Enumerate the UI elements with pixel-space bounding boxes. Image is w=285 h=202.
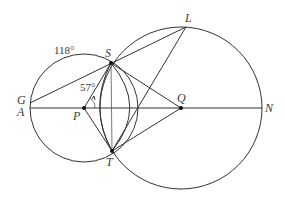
- label-t: T: [106, 155, 114, 169]
- label-n: N: [264, 101, 274, 115]
- label-a: A: [16, 105, 25, 119]
- line-t-l: [112, 27, 186, 151]
- point-t: [110, 149, 114, 153]
- point-p: [82, 106, 86, 110]
- lens-arc-left: [100, 63, 112, 151]
- line-s-q: [111, 63, 181, 108]
- arc-measure-118: 118°: [54, 44, 75, 56]
- point-q: [179, 106, 183, 110]
- angle-measure-57: 57°: [80, 81, 95, 93]
- label-s: S: [105, 46, 111, 60]
- line-p-t: [84, 108, 112, 151]
- diagram-canvas: G A P S T Q N L 118° 57°: [0, 0, 285, 202]
- geometry-diagram: G A P S T Q N L 118° 57°: [0, 0, 285, 202]
- label-q: Q: [177, 91, 186, 105]
- label-l: L: [184, 11, 192, 25]
- label-p: P: [72, 109, 81, 123]
- line-t-q: [112, 108, 181, 151]
- angle-arrow-icon: [92, 96, 95, 100]
- line-g-l: [30, 27, 186, 103]
- point-s: [109, 61, 113, 65]
- angle-arc-p: [90, 99, 95, 109]
- line-s-t: [111, 63, 112, 151]
